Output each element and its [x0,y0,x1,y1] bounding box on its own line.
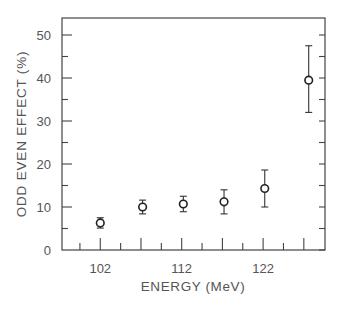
data-point [180,196,188,211]
open-circle-marker [139,203,147,211]
plot-border [62,18,325,250]
y-tick-label: 0 [44,243,51,258]
open-circle-marker [220,198,228,206]
plot-frame [62,18,325,250]
y-axis-title: ODD EVEN EFFECT (%) [14,51,29,217]
data-points [96,46,312,228]
open-circle-marker [261,185,269,193]
x-axis-title: ENERGY (MeV) [141,279,245,294]
odd-even-effect-chart: 01020304050 102112122 ENERGY (MeV) ODD E… [0,0,341,312]
data-point [139,200,147,214]
data-point [305,46,313,113]
y-tick-label: 40 [37,71,51,86]
x-tick-label: 122 [252,261,274,276]
data-point [261,170,269,207]
open-circle-marker [180,200,188,208]
y-axis-ticks: 01020304050 [37,28,325,258]
x-tick-label: 102 [89,261,111,276]
y-tick-label: 20 [37,157,51,172]
x-axis-ticks: 102112122 [80,238,304,276]
data-point [96,218,104,228]
y-tick-label: 50 [37,28,51,43]
open-circle-marker [96,219,104,227]
y-tick-label: 10 [37,200,51,215]
data-point [220,190,228,214]
x-tick-label: 112 [171,261,192,276]
y-tick-label: 30 [37,114,51,129]
open-circle-marker [305,76,313,84]
